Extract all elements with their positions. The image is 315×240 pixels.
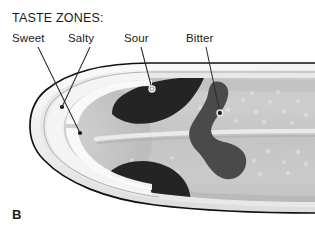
endpoint-salty bbox=[60, 105, 64, 109]
zone-label-salty: Salty bbox=[68, 33, 94, 45]
zone-label-bitter: Bitter bbox=[186, 33, 213, 45]
zone-label-sweet: Sweet bbox=[12, 33, 44, 45]
taste-zones-figure: TASTE ZONES: Sweet Salty Sour Bitter B bbox=[0, 0, 315, 240]
tongue-body bbox=[0, 60, 315, 220]
endpoint-sweet bbox=[78, 131, 82, 135]
endpoint-bitter bbox=[218, 111, 222, 115]
taste-zones-heading: TASTE ZONES: bbox=[12, 12, 104, 25]
endpoint-sour bbox=[150, 87, 154, 91]
zone-label-sour: Sour bbox=[124, 33, 149, 45]
panel-letter: B bbox=[12, 208, 21, 221]
tongue-diagram bbox=[0, 0, 315, 240]
